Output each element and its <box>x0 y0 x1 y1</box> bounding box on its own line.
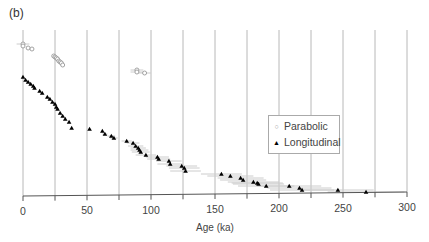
longitudinal-point <box>87 127 92 131</box>
gridlines <box>23 30 407 196</box>
longitudinal-point <box>69 126 74 130</box>
parabolic-point <box>30 47 34 51</box>
x-tick-label: 200 <box>270 202 288 214</box>
parabolic-point <box>26 46 30 50</box>
legend-label: Parabolic <box>284 120 328 132</box>
x-tick-label: 100 <box>142 204 160 216</box>
x-tick-label: 300 <box>398 201 416 213</box>
scatter-plot: 050100150200250300 Age (ka) <box>0 0 429 242</box>
longitudinal-point <box>100 129 105 133</box>
longitudinal-point <box>58 111 63 115</box>
error-bars <box>17 44 405 192</box>
legend-label: Longitudinal <box>284 136 341 148</box>
longitudinal-point <box>37 89 42 93</box>
parabolic-point <box>143 71 147 75</box>
x-tick-label: 50 <box>81 204 93 216</box>
x-tick-label: 150 <box>206 203 224 215</box>
x-axis: 050100150200250300 <box>20 192 416 217</box>
parabolic-point <box>21 44 25 48</box>
longitudinal-point <box>21 75 26 79</box>
legend-item-longitudinal: ▲ Longitudinal <box>272 136 341 148</box>
legend-item-parabolic: ○ Parabolic <box>272 120 328 132</box>
parabolic-point <box>61 63 65 67</box>
x-axis-title: Age (ka) <box>196 222 234 233</box>
open-circle-icon: ○ <box>272 123 281 130</box>
filled-triangle-icon: ▲ <box>272 139 281 146</box>
longitudinal-point <box>67 120 72 124</box>
x-tick-label: 250 <box>334 202 352 214</box>
legend: ○ Parabolic ▲ Longitudinal <box>268 115 340 154</box>
parabolic-point <box>135 70 139 74</box>
x-tick-label: 0 <box>20 205 26 217</box>
longitudinal-point <box>45 95 50 99</box>
